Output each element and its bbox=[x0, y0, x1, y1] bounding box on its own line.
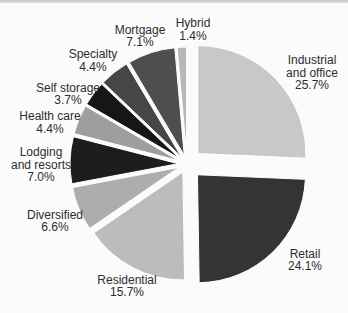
pie-chart-figure: Industrialand office25.7%Retail24.1%Resi… bbox=[0, 0, 348, 313]
slice-label-diversified: Diversified6.6% bbox=[27, 208, 83, 235]
pie-chart: Industrialand office25.7%Retail24.1%Resi… bbox=[0, 0, 348, 313]
slice-label-health-care: Health care4.4% bbox=[19, 109, 81, 136]
slice-label-hybrid: Hybrid1.4% bbox=[176, 16, 211, 43]
slice-label-industrial-and-office: Industrialand office25.7% bbox=[286, 53, 338, 92]
slice-label-retail: Retail24.1% bbox=[288, 247, 322, 274]
slice-label-mortgage: Mortgage7.1% bbox=[115, 23, 166, 50]
slice-label-residential: Residential15.7% bbox=[97, 273, 156, 300]
slice-label-lodging-and-resorts: Lodgingand resorts7.0% bbox=[11, 145, 71, 184]
slice-label-specialty: Specialty4.4% bbox=[69, 47, 118, 74]
